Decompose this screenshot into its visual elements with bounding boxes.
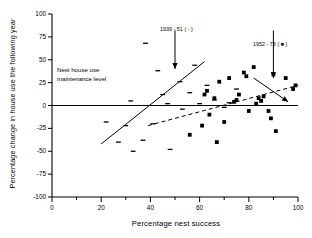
data-point bbox=[237, 93, 241, 97]
y-tick-label: -75 bbox=[37, 170, 46, 177]
data-point bbox=[262, 94, 266, 98]
data-point bbox=[208, 113, 212, 117]
y-tick-label: 75 bbox=[39, 33, 46, 40]
data-point bbox=[203, 93, 207, 97]
data-point bbox=[291, 87, 295, 91]
y-tick-label: 0 bbox=[42, 102, 46, 109]
x-tick-label: 20 bbox=[92, 204, 110, 211]
data-point bbox=[227, 76, 231, 80]
data-point bbox=[222, 120, 226, 124]
arrow-series-1939-51-head bbox=[172, 63, 177, 69]
y-axis-label: Percentage change in house use the follo… bbox=[8, 6, 17, 202]
nest-success-scatter-chart: Percentage change in house use the follo… bbox=[0, 0, 312, 238]
data-point bbox=[274, 129, 278, 133]
data-point bbox=[247, 109, 251, 113]
x-axis-label: Percentage nest success bbox=[52, 219, 300, 228]
annotation-maintenance-line-2: maintenance level bbox=[57, 75, 106, 84]
data-point bbox=[217, 80, 221, 84]
data-point bbox=[205, 89, 209, 93]
data-point bbox=[188, 133, 192, 137]
trendlines-group bbox=[101, 62, 298, 144]
trendline-1939-51 bbox=[101, 62, 204, 144]
data-point bbox=[254, 102, 258, 106]
x-tick-label: 60 bbox=[191, 204, 209, 211]
annotation-maintenance-line-1: Nest house use bbox=[57, 66, 106, 75]
y-tick-label: 50 bbox=[39, 56, 46, 63]
annotation-maintenance-level: Nest house use maintenance level bbox=[57, 66, 106, 83]
y-axis-label-wrap: Percentage change in house use the follo… bbox=[0, 0, 14, 238]
y-tick-label: -25 bbox=[37, 124, 46, 131]
series-1952-73-points bbox=[188, 65, 298, 144]
y-tick-label: 25 bbox=[39, 79, 46, 86]
y-tick-label: 100 bbox=[35, 10, 46, 17]
data-point bbox=[242, 71, 246, 75]
data-point bbox=[252, 65, 256, 69]
x-tick-label: 0 bbox=[43, 204, 61, 211]
x-tick-label: 100 bbox=[289, 204, 307, 211]
data-point bbox=[235, 98, 239, 102]
x-tick-label: 80 bbox=[240, 204, 258, 211]
data-point bbox=[284, 76, 288, 80]
data-point bbox=[294, 83, 298, 87]
series-label-1952-73: 1952 - 73 ( ■ ) bbox=[253, 41, 287, 47]
data-point bbox=[269, 116, 273, 120]
series-1939-51-points bbox=[104, 43, 239, 151]
arrow-maintenance-level-head bbox=[282, 96, 288, 102]
data-point bbox=[244, 74, 248, 78]
data-point bbox=[212, 96, 216, 100]
series-label-1939-51: 1939 - 51 ( - ) bbox=[160, 26, 193, 32]
y-tick-label: -50 bbox=[37, 147, 46, 154]
data-point bbox=[259, 99, 263, 103]
y-tick-label: -100 bbox=[33, 193, 46, 200]
data-point bbox=[267, 109, 271, 113]
data-point bbox=[215, 140, 219, 144]
plot-canvas bbox=[0, 0, 312, 238]
x-tick-label: 40 bbox=[141, 204, 159, 211]
data-point bbox=[200, 124, 204, 128]
